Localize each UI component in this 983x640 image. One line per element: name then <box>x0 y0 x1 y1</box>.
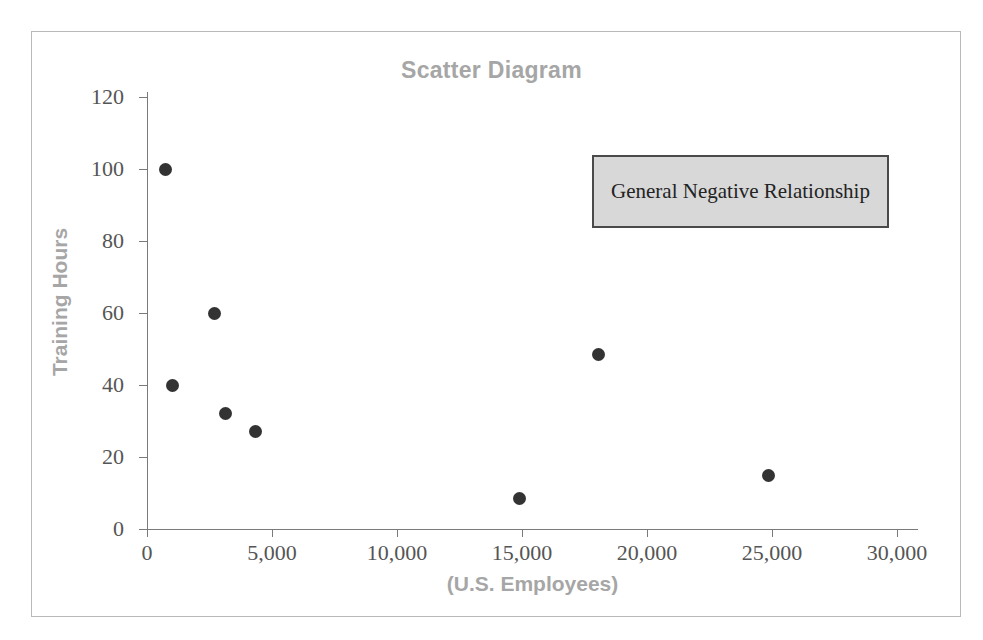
y-tick-label: 20 <box>80 446 124 468</box>
y-axis-label: Training Hours <box>48 202 72 402</box>
y-tick-label: 40 <box>80 374 124 396</box>
y-tick-mark <box>139 97 147 98</box>
annotation-text: General Negative Relationship <box>611 179 870 204</box>
x-tick-label: 5,000 <box>212 542 332 564</box>
data-point <box>762 469 775 482</box>
y-tick-label: 100 <box>80 158 124 180</box>
y-tick-mark <box>139 529 147 530</box>
x-tick-label: 15,000 <box>462 542 582 564</box>
x-axis-label: (U.S. Employees) <box>147 572 918 596</box>
x-tick-label: 20,000 <box>587 542 707 564</box>
y-tick-mark <box>139 457 147 458</box>
x-tick-mark <box>647 529 648 537</box>
data-point <box>219 407 232 420</box>
x-tick-label: 25,000 <box>712 542 832 564</box>
y-axis-line <box>147 92 148 530</box>
y-tick-mark <box>139 169 147 170</box>
x-tick-mark <box>522 529 523 537</box>
x-tick-label: 10,000 <box>337 542 457 564</box>
x-tick-mark <box>772 529 773 537</box>
y-tick-label: 120 <box>80 86 124 108</box>
x-tick-mark <box>897 529 898 537</box>
x-tick-mark <box>272 529 273 537</box>
data-point <box>166 379 179 392</box>
annotation-callout-box: General Negative Relationship <box>592 155 889 228</box>
figure-canvas: Scatter Diagram 020406080100120 05,00010… <box>0 0 983 640</box>
x-axis-line <box>147 529 918 530</box>
y-tick-label: 60 <box>80 302 124 324</box>
data-point <box>592 348 605 361</box>
y-tick-label: 0 <box>80 518 124 540</box>
y-tick-label: 80 <box>80 230 124 252</box>
data-point <box>249 425 262 438</box>
x-tick-label: 30,000 <box>837 542 957 564</box>
x-tick-label: 0 <box>87 542 207 564</box>
x-tick-mark <box>397 529 398 537</box>
y-tick-mark <box>139 313 147 314</box>
y-tick-mark <box>139 385 147 386</box>
data-point <box>513 492 526 505</box>
y-tick-mark <box>139 241 147 242</box>
data-point <box>159 163 172 176</box>
x-tick-mark <box>147 529 148 537</box>
data-point <box>208 307 221 320</box>
scatter-plot: Scatter Diagram 020406080100120 05,00010… <box>0 0 983 640</box>
page-title: Scatter Diagram <box>0 57 983 84</box>
